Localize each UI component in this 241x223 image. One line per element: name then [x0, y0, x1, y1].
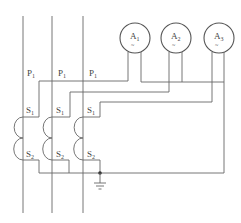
secondary-wiring: [23, 52, 224, 173]
ammeters: A1 ~ A2 ~ A3 ~: [120, 23, 234, 53]
p1-label-1: P1: [27, 68, 35, 79]
wire-s2-phase1: [23, 160, 100, 173]
secondary-labels: S1 S1 S1 S2 S2 S2: [26, 105, 95, 160]
ct-coil-3: [74, 117, 83, 160]
ct-wiring-diagram: P1 P1 P1 A1 ~ A2 ~ A3 ~: [0, 0, 241, 223]
wire-s2-phase2: [52, 160, 69, 173]
s2-label-1: S2: [26, 149, 34, 160]
ground-icon: [94, 183, 106, 189]
wire-s2-phase3: [83, 160, 100, 173]
s2-label-3: S2: [87, 149, 95, 160]
s1-label-3: S1: [87, 105, 95, 116]
s2-label-2: S2: [56, 149, 64, 160]
ct-coils: [14, 117, 83, 160]
p1-label-2: P1: [58, 68, 66, 79]
ammeter-a3: A3 ~: [204, 23, 234, 53]
ammeter-a1: A1 ~: [120, 23, 150, 53]
p1-label-3: P1: [89, 68, 97, 79]
wire-a3-to-s1-phase3: [83, 52, 212, 117]
primary-labels: P1 P1 P1: [27, 68, 97, 79]
ct-coil-1: [14, 117, 23, 160]
ground-connection: [94, 171, 106, 189]
ct-coil-2: [43, 117, 52, 160]
ammeter-a2: A2 ~: [161, 23, 191, 53]
wire-a2-to-s1-phase2: [52, 52, 169, 117]
wire-a1-to-s1-phase1: [23, 52, 128, 117]
s1-label-1: S1: [26, 105, 34, 116]
s1-label-2: S1: [56, 105, 64, 116]
